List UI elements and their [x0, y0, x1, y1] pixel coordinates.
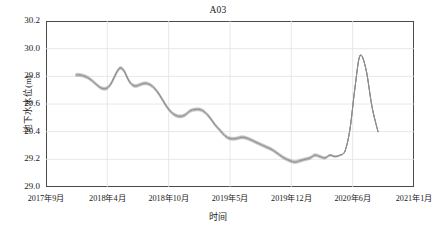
- gridlines: [46, 21, 414, 187]
- chart-figure: A03 地下水水位(m) 29.029.229.429.629.830.030.…: [0, 0, 436, 233]
- data-line: [76, 55, 378, 162]
- y-tick-label: 29.0: [0, 181, 40, 191]
- y-tick-label: 29.2: [0, 153, 40, 163]
- data-line-series: [76, 55, 378, 164]
- y-tick-label: 29.4: [0, 126, 40, 136]
- x-tick-label: 2018年10月: [148, 191, 189, 203]
- x-tick-label: 2018年4月: [89, 191, 125, 203]
- data-line: [76, 55, 378, 162]
- x-tick-label: 2019年5月: [212, 191, 248, 203]
- y-tick-label: 30.0: [0, 43, 40, 53]
- y-tick-label: 29.6: [0, 98, 40, 108]
- y-tick-label: 30.2: [0, 15, 40, 25]
- x-tick-label: 2017年9月: [28, 191, 64, 203]
- x-tick-label: 2020年6月: [334, 191, 370, 203]
- data-line: [76, 55, 378, 161]
- x-tick-label: 2021年1月: [396, 191, 432, 203]
- x-tick-label: 2019年12月: [271, 191, 312, 203]
- x-axis-label: 时间: [0, 210, 436, 223]
- chart-title: A03: [0, 5, 436, 15]
- data-line: [76, 55, 378, 164]
- data-line: [76, 55, 378, 163]
- data-line: [76, 55, 378, 161]
- data-line: [76, 55, 378, 163]
- y-tick-label: 29.8: [0, 70, 40, 80]
- plot-canvas: [46, 21, 414, 187]
